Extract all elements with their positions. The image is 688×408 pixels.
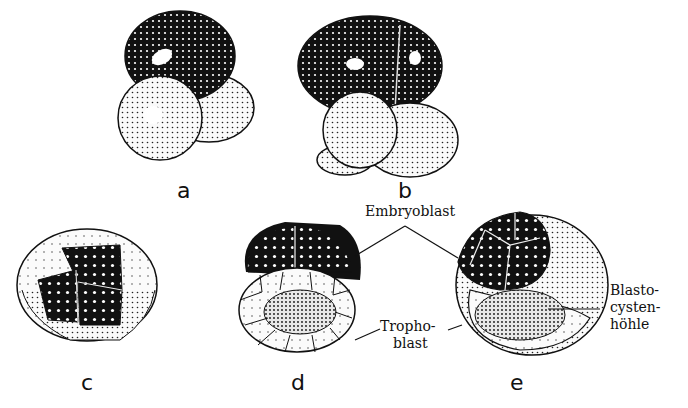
label-blastocyst-line1: Blasto-	[610, 282, 661, 299]
label-trophoblast-line1: Tropho-	[380, 318, 436, 335]
panel-letter-b: b	[398, 180, 412, 202]
label-blastocyst-cavity: Blasto- cysten- höhle	[610, 282, 661, 333]
panel-letter-a: a	[177, 180, 190, 202]
panel-letter-c: c	[81, 372, 93, 394]
panel-d-early-blastocyst	[239, 222, 361, 352]
panel-letter-d: d	[291, 372, 305, 394]
panel-c-morula	[17, 229, 157, 341]
panel-letter-e: e	[510, 372, 524, 394]
label-trophoblast: Tropho- blast	[380, 318, 436, 352]
diagram-drawing	[0, 0, 688, 408]
embryo-cleavage-diagram: a b c d e Embryoblast Tropho- blast Blas…	[0, 0, 688, 408]
label-blastocyst-line2: cysten-	[610, 299, 661, 316]
panel-a-two-cell	[118, 11, 254, 160]
label-blastocyst-line3: höhle	[610, 316, 661, 333]
label-embryoblast: Embryoblast	[365, 203, 455, 220]
panel-b-four-cell	[298, 16, 458, 177]
label-trophoblast-line2: blast	[380, 335, 436, 352]
panel-e-blastocyst	[456, 212, 608, 355]
